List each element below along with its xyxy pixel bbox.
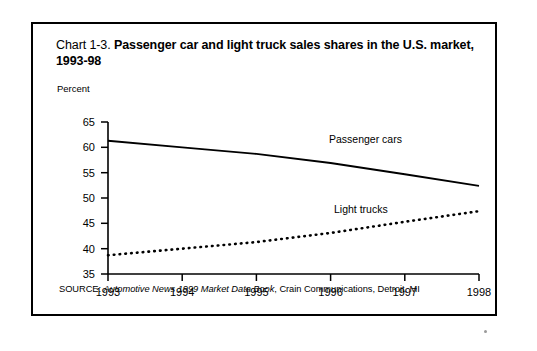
- series-line-light-trucks: [108, 211, 479, 255]
- source-publication: Automotive News 1999 Market Data Book: [104, 284, 275, 294]
- chart-number: Chart 1-3.: [56, 38, 111, 52]
- x-tick-label: 1998: [467, 286, 491, 298]
- y-tick-label: 35: [83, 268, 95, 280]
- y-tick-label: 65: [83, 116, 95, 128]
- y-tick-label: 50: [83, 192, 95, 204]
- y-tick-label: 60: [83, 141, 95, 153]
- y-axis-unit-label: Percent: [57, 83, 90, 94]
- line-chart-svg: 65 60 55 50 45 40 35 Pass: [33, 96, 499, 286]
- y-tick-label: 55: [83, 167, 95, 179]
- source-note: SOURCE: Automotive News 1999 Market Data…: [59, 284, 420, 294]
- source-prefix: SOURCE:: [59, 284, 101, 294]
- series-label-passenger-cars: Passenger cars: [329, 133, 402, 145]
- page-title: Chart 1-3. Passenger car and light truck…: [56, 38, 476, 69]
- series-label-light-trucks: Light trucks: [334, 203, 388, 215]
- x-axis-ticks: [108, 274, 479, 281]
- chart-title-text: Passenger car and light truck sales shar…: [56, 38, 474, 68]
- scan-artifact-speck: [484, 330, 487, 333]
- source-rest: , Crain Communications, Detroit, MI: [274, 284, 420, 294]
- y-tick-label: 40: [83, 243, 95, 255]
- y-axis-tick-labels: 65 60 55 50 45 40 35: [83, 116, 95, 280]
- y-axis-ticks: [101, 122, 108, 274]
- plot-area: 65 60 55 50 45 40 35 Pass: [33, 96, 499, 286]
- y-tick-label: 45: [83, 217, 95, 229]
- figure-frame: Chart 1-3. Passenger car and light truck…: [31, 22, 497, 316]
- series-line-passenger-cars: [108, 141, 479, 186]
